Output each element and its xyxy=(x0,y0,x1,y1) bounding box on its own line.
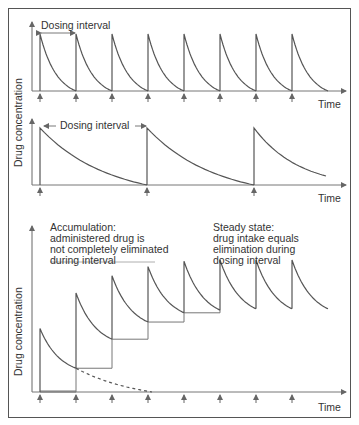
top-dosing-interval-label: Dosing interval xyxy=(41,20,110,31)
dose-arrows xyxy=(40,395,292,403)
figure-frame xyxy=(9,9,351,418)
middle-time-label: Time xyxy=(318,193,341,204)
dose-arrows xyxy=(40,188,254,196)
steady-state-text: Steady state: drug intake equals elimina… xyxy=(213,222,299,266)
dose-arrows xyxy=(40,94,292,102)
diagram-canvas xyxy=(0,0,359,425)
bottom-y-axis-label: Drug concentration xyxy=(13,287,24,376)
concentration-curve xyxy=(40,34,328,91)
accumulation-line-4: during interval xyxy=(50,255,168,266)
steady-state-line-4: dosing interval xyxy=(213,255,299,266)
top-panel xyxy=(32,22,346,102)
concentration-curve xyxy=(40,128,326,185)
middle-dosing-interval-label: Dosing interval xyxy=(60,120,129,131)
first-dose-elimination-dashed xyxy=(76,368,152,392)
accumulation-text: Accumulation: administered drug is not c… xyxy=(50,222,168,266)
top-y-axis-label: Drug concentration xyxy=(13,78,24,167)
pharmacokinetics-diagram: Dosing interval Time Dosing interval Tim… xyxy=(0,0,359,425)
bottom-time-label: Time xyxy=(318,402,341,413)
trough-steps xyxy=(40,310,220,392)
top-time-label: Time xyxy=(318,99,341,110)
